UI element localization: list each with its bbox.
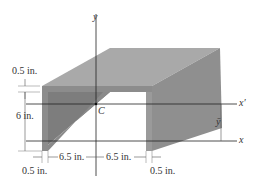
right-web-thickness-label: 0.5 in. <box>150 166 175 176</box>
y-axis-label: y <box>93 12 97 22</box>
right-half-width-label: 6.5 in. <box>106 152 131 162</box>
centroid-point <box>95 103 98 106</box>
height-label: 6 in. <box>16 111 34 121</box>
front-top-flange <box>42 86 152 92</box>
centroid-label: C <box>98 106 105 116</box>
left-web-thickness-label: 0.5 in. <box>22 166 47 176</box>
inner-right-wall <box>146 92 152 151</box>
left-half-width-label: 6.5 in. <box>59 152 84 162</box>
x-axis-label: x <box>239 135 243 145</box>
top-flange-thickness-label: 0.5 in. <box>12 66 37 76</box>
ybar-label: ȳ <box>216 117 220 127</box>
front-left-web <box>42 92 48 151</box>
x-prime-axis-label: x′ <box>239 98 246 108</box>
